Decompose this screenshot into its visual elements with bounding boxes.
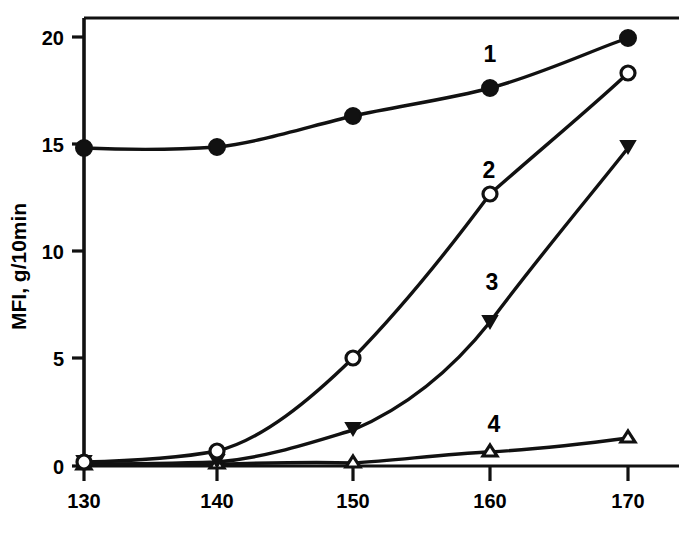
x-tick-label-140: 140 xyxy=(200,490,233,512)
y-tick-label-0: 0 xyxy=(53,456,64,478)
series-2-curve xyxy=(84,73,628,462)
y-axis-tick-labels: 20 15 10 5 0 xyxy=(42,27,64,478)
series-4-marker-160 xyxy=(483,445,497,456)
chart-container: 20 15 10 5 0 130 140 150 160 170 MFI, g/… xyxy=(0,0,679,542)
mfi-line-chart: 20 15 10 5 0 130 140 150 160 170 MFI, g/… xyxy=(0,0,679,542)
x-tick-label-130: 130 xyxy=(67,490,100,512)
series-2-label: 2 xyxy=(483,157,496,183)
series-3-label: 3 xyxy=(486,269,499,295)
series-1-marker-150 xyxy=(345,108,361,124)
y-tick-label-5: 5 xyxy=(53,348,64,370)
series-3-group xyxy=(77,141,635,468)
series-2-marker-170 xyxy=(621,66,635,80)
series-3-curve xyxy=(84,148,628,464)
series-2-marker-130 xyxy=(77,455,91,469)
series-1-curve xyxy=(84,38,628,149)
series-1-marker-170 xyxy=(620,30,636,46)
series-1-group xyxy=(76,30,636,156)
x-tick-label-160: 160 xyxy=(473,490,506,512)
y-tick-label-15: 15 xyxy=(42,134,64,156)
x-axis-tick-labels: 130 140 150 160 170 xyxy=(67,490,644,512)
series-4-label: 4 xyxy=(488,411,501,437)
series-1-marker-140 xyxy=(209,139,225,155)
x-tick-label-170: 170 xyxy=(611,490,644,512)
plot-frame xyxy=(84,18,679,466)
series-4-marker-150 xyxy=(346,456,360,467)
series-1-label: 1 xyxy=(484,41,497,67)
series-2-marker-160 xyxy=(483,187,497,201)
y-tick-label-20: 20 xyxy=(42,27,64,49)
series-4-marker-170 xyxy=(621,431,635,442)
series-2-marker-140 xyxy=(210,444,224,458)
series-3-marker-170 xyxy=(621,141,635,153)
x-tick-label-150: 150 xyxy=(336,490,369,512)
series-1-marker-130 xyxy=(76,140,92,156)
y-tick-label-10: 10 xyxy=(42,241,64,263)
series-2-group xyxy=(77,66,635,469)
series-1-marker-160 xyxy=(482,80,498,96)
y-axis-title: MFI, g/10min xyxy=(7,203,30,330)
series-2-marker-150 xyxy=(346,351,360,365)
series-inline-labels: 1 2 3 4 xyxy=(483,41,501,437)
